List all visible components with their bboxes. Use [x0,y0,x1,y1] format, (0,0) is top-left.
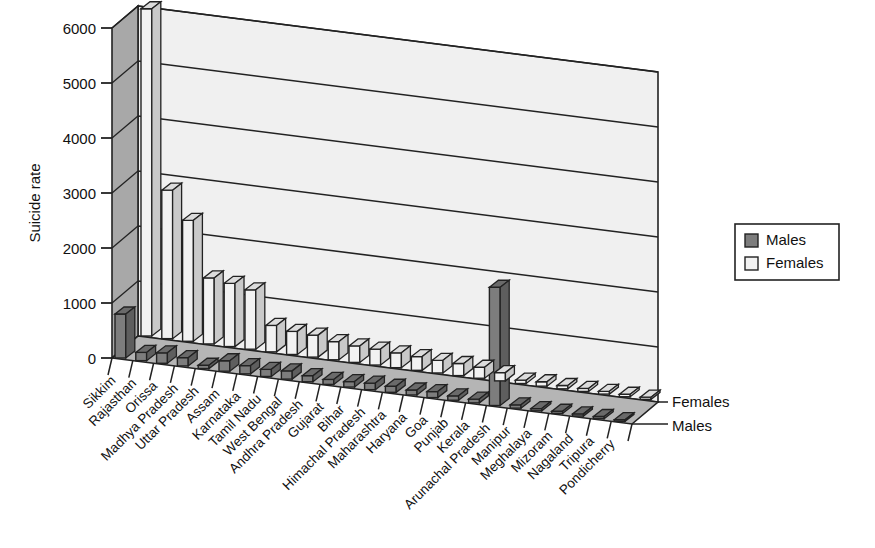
y-tick-label: 1000 [63,295,96,312]
bar [307,328,327,357]
bar-chart-3d: 0100020003000400050006000 SikkimRajastha… [0,0,875,548]
bar [266,318,286,351]
legend-swatch-females [745,257,758,270]
y-tick-label: 2000 [63,240,96,257]
legend-label-females: Females [766,254,824,271]
legend-label-males: Males [766,231,806,248]
y-tick-label: 0 [88,350,96,367]
y-tick-label: 6000 [63,20,96,37]
depth-axis-label-males: Males [672,417,712,434]
y-tick-label: 5000 [63,75,96,92]
bar [224,276,244,346]
bar [115,307,135,358]
bar [141,2,161,336]
legend: Males Females [735,224,839,280]
bar [245,283,265,349]
bar [489,280,509,405]
y-axis-label: Suicide rate [26,163,43,242]
bar [203,271,223,344]
y-axis-ticks: 0100020003000400050006000 [63,20,112,367]
bar [287,324,307,354]
bar [162,183,182,339]
depth-axis-label-females: Females [672,393,730,410]
bar [183,213,203,341]
y-tick-label: 4000 [63,130,96,147]
chart-root: 0100020003000400050006000 SikkimRajastha… [0,0,875,548]
y-tick-label: 3000 [63,185,96,202]
legend-swatch-males [745,234,758,247]
